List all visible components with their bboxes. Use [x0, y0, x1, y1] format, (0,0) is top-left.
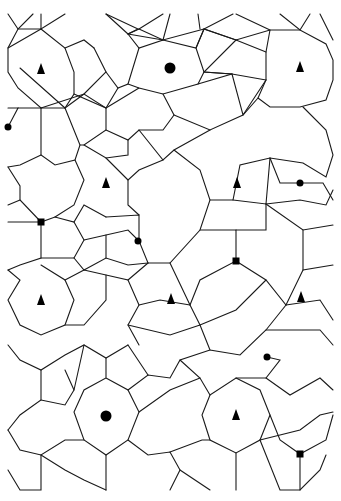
cell-edge	[8, 430, 84, 455]
cell-edge	[266, 204, 333, 230]
triangle-marker-icon	[37, 63, 45, 74]
cell-edge	[8, 200, 20, 205]
cell-edge	[8, 345, 128, 370]
cell-edge	[65, 40, 94, 48]
cell-edge	[128, 263, 148, 280]
cell-edge	[8, 455, 41, 490]
cell-edge	[174, 98, 258, 130]
cell-edge	[8, 370, 41, 430]
cell-edge	[74, 258, 148, 270]
cell-edge	[270, 415, 333, 454]
cell-edge	[260, 440, 326, 490]
cell-edge	[204, 29, 333, 107]
cell-edge	[84, 230, 139, 241]
square-marker-icon	[38, 219, 45, 226]
triangle-marker-icon	[102, 177, 110, 188]
cell-edge	[236, 40, 266, 52]
cell-edge	[233, 158, 270, 204]
cell-edge	[320, 14, 333, 40]
cell-edge	[8, 155, 41, 167]
triangle-marker-icon	[167, 293, 175, 304]
cell-edge	[74, 345, 84, 390]
cell-edge	[84, 270, 139, 345]
small-dot-marker-icon	[135, 238, 142, 245]
cell-edge	[139, 130, 210, 160]
cell-edge	[266, 330, 333, 345]
triangle-marker-icon	[296, 61, 304, 72]
cell-edge	[266, 378, 333, 395]
cell-edge	[84, 140, 128, 158]
cell-edge	[236, 204, 266, 230]
cell-edge	[106, 14, 170, 48]
cell-edge	[180, 357, 280, 395]
cell-edge	[236, 261, 333, 305]
cell-edges	[8, 14, 333, 490]
cell-edge	[204, 72, 232, 74]
square-marker-icon	[297, 451, 304, 458]
large-dot-marker-icon	[101, 411, 112, 422]
cell-edge	[106, 94, 174, 140]
cell-edge	[8, 222, 41, 270]
cell-edge	[106, 48, 139, 88]
cell-edge	[300, 183, 333, 200]
cell-edge	[41, 370, 74, 405]
cell-edge	[41, 455, 106, 490]
triangle-marker-icon	[232, 409, 240, 420]
large-dot-marker-icon	[165, 63, 176, 74]
cell-edge	[198, 74, 266, 115]
cell-edge	[180, 470, 210, 490]
cell-edge	[128, 160, 163, 215]
cell-edge	[204, 40, 266, 80]
triangle-marker-icon	[297, 291, 305, 302]
cell-edge	[65, 270, 84, 280]
cell-edge	[65, 275, 106, 325]
cell-edge	[139, 300, 190, 305]
cell-edge	[266, 190, 333, 205]
cell-edge	[170, 440, 210, 452]
cell-edge	[198, 14, 200, 29]
cell-edge	[128, 440, 180, 490]
small-dot-marker-icon	[264, 354, 271, 361]
cell-edge	[210, 107, 333, 200]
cell-edge	[280, 14, 310, 30]
cell-edge	[8, 167, 106, 222]
cell-edge	[163, 29, 236, 48]
cell-edge	[286, 300, 333, 320]
cell-edge	[236, 14, 270, 30]
triangle-marker-icon	[233, 177, 241, 188]
cell-edge	[55, 160, 84, 217]
node-markers	[5, 61, 306, 458]
small-dot-marker-icon	[297, 180, 304, 187]
cell-network	[0, 0, 341, 501]
cell-edge	[128, 350, 210, 390]
small-dot-marker-icon	[5, 124, 12, 131]
cell-edge	[139, 14, 233, 40]
square-marker-icon	[233, 258, 240, 265]
cell-edge	[128, 345, 148, 375]
cell-edge	[106, 158, 128, 180]
cell-edge	[139, 378, 200, 412]
cell-edge	[8, 14, 65, 29]
cell-edge	[41, 108, 80, 165]
cell-edge	[106, 88, 139, 108]
cell-edge	[41, 222, 84, 258]
triangle-marker-icon	[37, 294, 45, 305]
tessellation-diagram	[0, 0, 341, 501]
cell-edge	[106, 150, 210, 263]
cell-edge	[190, 230, 236, 325]
